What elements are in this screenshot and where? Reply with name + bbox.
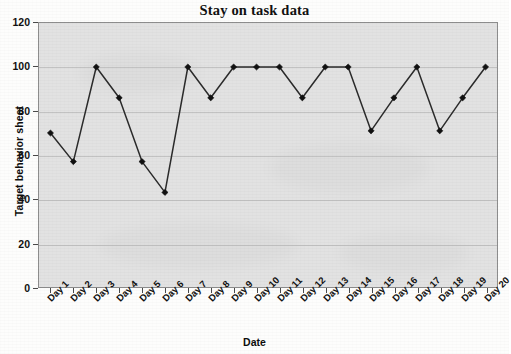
x-axis-title: Date [0, 336, 509, 348]
x-tick-label: Day 1 [45, 278, 71, 304]
x-tick-label: Day 3 [91, 278, 117, 304]
x-tick-label: Day 8 [206, 278, 232, 304]
x-tick-label: Day 2 [68, 278, 94, 304]
x-tick-label: Day 12 [298, 274, 327, 303]
x-tick-label: Day 9 [229, 278, 255, 304]
x-tick-label: Day 4 [114, 278, 140, 304]
x-tick-label: Day 10 [252, 274, 281, 303]
x-tick-label: Day 5 [137, 278, 163, 304]
x-tick-label: Day 6 [160, 278, 186, 304]
x-tick-label: Day 7 [183, 278, 209, 304]
